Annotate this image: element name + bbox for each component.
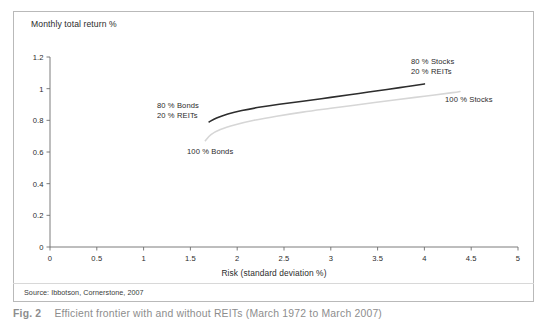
x-tick-label: 4.5 (466, 254, 477, 263)
figure-caption: Fig. 2 Efficient frontier with and witho… (13, 308, 548, 319)
annotation-line-2: 20 % REITs (157, 111, 199, 121)
x-tick-label: 2.5 (279, 254, 290, 263)
figure-page: Monthly total return % 00.511.522.533.54… (0, 0, 548, 322)
source-note: Source: Ibbotson, Cornerstone, 2007 (24, 288, 144, 297)
annotation-line-1: 80 % Stocks (411, 57, 454, 67)
y-tick-label: 1 (39, 85, 43, 94)
y-tick-label: 0.2 (33, 211, 44, 220)
annotation-line-1: 100 % Bonds (187, 147, 233, 157)
y-tick-label: 0.4 (33, 180, 44, 189)
x-tick-label: 3 (329, 254, 333, 263)
annotation-line-1: 100 % Stocks (445, 95, 493, 105)
series-group (205, 84, 460, 141)
x-tick-label: 0.5 (91, 254, 102, 263)
y-tick-label: 1.2 (33, 53, 44, 62)
x-tick-label: 2 (235, 254, 239, 263)
series-line-without-reits (205, 92, 460, 141)
x-tick-label: 1.5 (185, 254, 196, 263)
x-tick-label: 3.5 (372, 254, 383, 263)
x-tick-label: 1 (141, 254, 145, 263)
x-axis-title: Risk (standard deviation %) (0, 268, 548, 278)
y-tick-label: 0 (39, 243, 43, 252)
x-tick-label: 0 (48, 254, 52, 263)
x-tick-label: 4 (422, 254, 426, 263)
annotation-bonds-reits: 80 % Bonds 20 % REITs (157, 101, 199, 121)
figure-caption-text: Efficient frontier with and without REIT… (54, 308, 382, 319)
annotation-hundred-stocks: 100 % Stocks (445, 95, 493, 105)
y-tick-label: 0.8 (33, 116, 44, 125)
source-divider (13, 283, 534, 284)
x-tick-label: 5 (516, 254, 520, 263)
series-line-with-reits (209, 84, 424, 122)
annotation-stocks-reits: 80 % Stocks 20 % REITs (411, 57, 454, 77)
axes-group: 00.511.522.533.544.5500.20.40.60.811.2 (33, 53, 521, 263)
annotation-line-1: 80 % Bonds (157, 101, 199, 111)
annotation-line-2: 20 % REITs (411, 67, 454, 77)
annotation-hundred-bonds: 100 % Bonds (187, 147, 233, 157)
figure-number: Fig. 2 (13, 308, 41, 319)
y-tick-label: 0.6 (33, 148, 44, 157)
